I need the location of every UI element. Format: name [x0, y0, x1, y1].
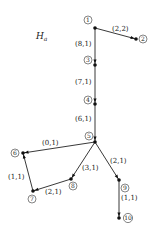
arrowhead-icon: [23, 154, 26, 158]
edge-label: (8,1): [75, 40, 92, 48]
edge-label: (3,1): [82, 164, 99, 172]
arrowhead-icon: [117, 213, 120, 217]
arrowhead-icon: [115, 174, 118, 178]
node-label: 2: [141, 35, 145, 42]
node-label: 10: [124, 214, 132, 221]
edge-label: (0,1): [42, 139, 59, 147]
arrowhead-icon: [93, 137, 96, 141]
graph-diagram: Ha (2,2)(8,1)(7,1)(6,1)(0,1)(1,1)(2,1)(3…: [0, 0, 158, 236]
arrowhead-icon: [93, 99, 96, 103]
arrowhead-icon: [24, 151, 28, 154]
edge-label: (2,2): [112, 25, 129, 33]
edge-5-6: [23, 142, 95, 153]
node-label: 7: [30, 195, 34, 202]
node-label: 6: [13, 149, 17, 156]
arrowhead-icon: [93, 60, 96, 64]
node-dot: [134, 37, 138, 41]
edge-label: (1,1): [121, 194, 138, 202]
node-dot: [93, 140, 97, 144]
edge-label: (2,1): [110, 157, 127, 165]
edge-label: (7,1): [75, 78, 92, 86]
arrowhead-icon: [34, 188, 38, 191]
graph-title: Ha: [35, 31, 48, 42]
edge-7-6: [23, 153, 33, 191]
node-dot: [31, 189, 35, 193]
edge-label: (1,1): [8, 173, 25, 181]
node-label: 8: [71, 182, 75, 189]
node-dot: [93, 63, 97, 67]
arrowhead-icon: [72, 174, 76, 178]
node-label: 9: [123, 184, 127, 191]
node-dot: [21, 151, 25, 155]
node-label: 1: [86, 16, 90, 23]
node-dot: [117, 178, 121, 182]
edge-label: (2,1): [45, 188, 62, 196]
arrowhead-icon: [130, 36, 134, 39]
node-label: 3: [86, 56, 90, 63]
edge-label: (6,1): [75, 115, 92, 123]
node-dot: [117, 216, 121, 220]
node-dot: [93, 102, 97, 106]
node-dot: [69, 177, 73, 181]
edge-5-8: [71, 142, 95, 179]
node-label: 4: [86, 96, 90, 103]
node-dot: [93, 26, 97, 30]
node-label: 5: [87, 132, 91, 139]
